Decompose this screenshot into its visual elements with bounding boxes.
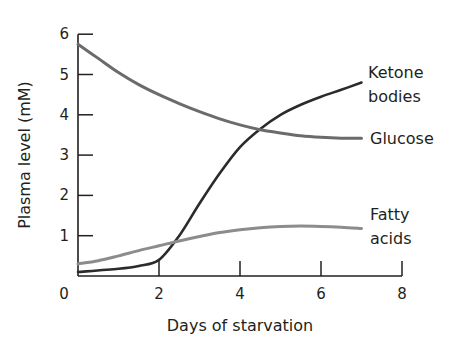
chart: 12345602468 KetonebodiesGlucoseFattyacid… [0,0,470,347]
x-axis-label: Days of starvation [167,316,313,335]
series-line-glucose [78,44,362,138]
x-tick-label: 0 [59,285,69,303]
y-tick-label: 4 [59,106,69,124]
series-label: bodies [368,87,421,106]
series-label: acids [370,229,412,248]
y-tick-label: 3 [59,146,69,164]
axes [78,34,402,276]
y-axis-label: Plasma level (mM) [15,81,34,229]
series-label: Fatty [370,205,410,224]
y-tick-label: 2 [59,186,69,204]
series-line-fatty-acids [78,226,362,264]
series-lines [78,44,362,272]
series-labels: KetonebodiesGlucoseFattyacids [368,63,434,248]
x-tick-label: 2 [154,285,164,303]
y-tick-label: 6 [59,25,69,43]
x-tick-label: 6 [316,285,326,303]
x-tick-label: 8 [397,285,407,303]
series-label: Glucose [370,129,434,148]
y-tick-label: 1 [59,227,69,245]
series-label: Ketone [368,63,424,82]
x-tick-label: 4 [235,285,245,303]
y-tick-label: 5 [59,66,69,84]
series-line-ketone-bodies [78,83,362,272]
